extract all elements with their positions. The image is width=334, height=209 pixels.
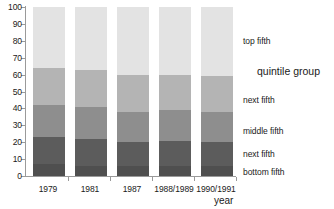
y-axis-label: 40	[0, 104, 22, 113]
bar-segment-top-fifth	[159, 7, 191, 75]
x-axis-tick	[152, 177, 153, 181]
bar-segment-next-fifth-2	[75, 139, 107, 166]
bar-1979	[33, 7, 65, 176]
legend-label-next-fifth: next fifth	[243, 96, 275, 105]
bar-segment-next-fifth-2	[33, 137, 65, 164]
y-axis-label: 100	[0, 3, 22, 12]
x-axis-label-1981: 1981	[69, 185, 111, 194]
bar-segment-next-fifth	[75, 70, 107, 107]
bar-segment-bottom-fifth	[33, 164, 65, 176]
bar-segment-middle-fifth	[159, 110, 191, 140]
bar-segment-next-fifth-2	[159, 141, 191, 166]
x-axis-label-1988-1989: 1988/1989	[150, 185, 198, 194]
x-axis-tick	[110, 177, 111, 181]
bar-segment-middle-fifth	[33, 105, 65, 137]
bar-segment-bottom-fifth	[75, 166, 107, 176]
x-axis-label-1987: 1987	[111, 185, 153, 194]
legend-label-bottom-fifth: bottom fifth	[243, 168, 284, 177]
y-axis-label: 90	[0, 20, 22, 29]
legend-label-middle-fifth: middle fifth	[243, 127, 284, 136]
x-axis-label-1979: 1979	[27, 185, 69, 194]
legend-label-next-fifth-2: next fifth	[243, 150, 275, 159]
x-axis-tick	[68, 177, 69, 181]
x-axis-label-1990-1991: 1990/1991	[192, 185, 240, 194]
bar-segment-next-fifth	[33, 68, 65, 105]
x-axis-line	[25, 176, 236, 177]
bar-segment-top-fifth	[117, 7, 149, 75]
y-axis-label: 0	[0, 172, 22, 181]
bar-segment-bottom-fifth	[201, 166, 233, 176]
bar-1990-1991	[201, 7, 233, 176]
bar-segment-bottom-fifth	[159, 166, 191, 176]
y-axis-label: 80	[0, 37, 22, 46]
bar-segment-middle-fifth	[201, 112, 233, 142]
bar-1988-1989	[159, 7, 191, 176]
bar-segment-next-fifth-2	[201, 142, 233, 166]
y-axis-label: 70	[0, 54, 22, 63]
x-axis-tick	[194, 177, 195, 181]
bar-segment-top-fifth	[33, 7, 65, 68]
x-axis-title: year	[214, 196, 233, 206]
plot-area: 100 90 80 70 60 50 40 30 20 10 0 1979 19…	[0, 0, 334, 209]
legend-title: quintile group	[257, 66, 320, 77]
y-axis-label: 30	[0, 121, 22, 130]
chart-container: 100 90 80 70 60 50 40 30 20 10 0 1979 19…	[0, 0, 334, 209]
bar-segment-next-fifth	[159, 75, 191, 111]
bar-segment-next-fifth	[201, 76, 233, 112]
y-axis-label: 50	[0, 88, 22, 97]
y-axis-label: 10	[0, 155, 22, 164]
y-axis-label: 20	[0, 138, 22, 147]
bar-segment-next-fifth	[117, 75, 149, 112]
bar-segment-middle-fifth	[117, 112, 149, 142]
bar-segment-top-fifth	[75, 7, 107, 70]
bar-segment-middle-fifth	[75, 107, 107, 139]
y-axis-label: 60	[0, 71, 22, 80]
legend-label-top-fifth: top fifth	[243, 37, 270, 46]
bar-segment-top-fifth	[201, 7, 233, 76]
bar-segment-bottom-fifth	[117, 166, 149, 176]
bar-segment-next-fifth-2	[117, 142, 149, 166]
bar-1987	[117, 7, 149, 176]
x-axis-tick	[236, 177, 237, 181]
bar-1981	[75, 7, 107, 176]
